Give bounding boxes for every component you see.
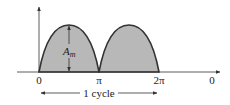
- half-cycle-hump-2: [99, 25, 159, 72]
- x-tick-2pi: 2π: [153, 74, 165, 86]
- x-tick-0: 0: [36, 74, 42, 86]
- x-tick-end: 0: [209, 74, 215, 86]
- full-wave-rectified-diagram: Am 0 π 2π 0 1 cycle: [0, 0, 230, 105]
- period-label: 1 cycle: [83, 87, 115, 99]
- x-tick-pi: π: [96, 74, 102, 86]
